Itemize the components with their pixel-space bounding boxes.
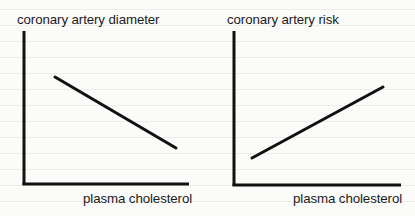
- right-trend-line-increasing: [252, 87, 383, 158]
- right-chart: [233, 31, 402, 186]
- left-trend-line-decreasing: [55, 77, 176, 148]
- plot-canvas: [0, 0, 415, 216]
- figure: coronary artery diameter plasma choleste…: [0, 0, 415, 216]
- left-chart: [23, 31, 190, 185]
